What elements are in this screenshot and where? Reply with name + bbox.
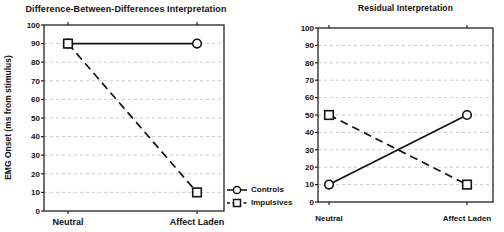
y-tick-label: 70 [31, 77, 40, 86]
marker-square-impulsives [64, 39, 73, 48]
y-tick-label: 70 [305, 76, 314, 85]
legend: Controls Impulsives [227, 184, 292, 208]
figure-two-panel-line-chart: Difference-Between-Differences Interpret… [0, 0, 504, 232]
y-tick-label: 40 [31, 132, 40, 141]
y-tick-label: 90 [305, 41, 314, 50]
y-tick-label: 30 [305, 146, 314, 155]
y-tick-label: 60 [305, 93, 314, 102]
marker-circle-controls [193, 39, 202, 48]
marker-circle-controls [325, 180, 334, 189]
legend-item-controls: Controls [227, 184, 292, 195]
y-tick-label: 50 [31, 114, 40, 123]
marker-square-impulsives [325, 111, 334, 120]
legend-label-impulsives: Impulsives [251, 198, 292, 207]
x-category-label: Neutral [52, 217, 83, 227]
y-tick-label: 10 [31, 188, 40, 197]
x-category-label: Neutral [315, 214, 343, 223]
x-category-label: Affect Laden [443, 214, 492, 223]
marker-square-impulsives [463, 180, 472, 189]
y-tick-label: 80 [305, 59, 314, 68]
marker-circle-controls [463, 111, 472, 120]
legend-item-impulsives: Impulsives [227, 197, 292, 208]
y-tick-label: 60 [31, 95, 40, 104]
y-tick-label: 30 [31, 151, 40, 160]
y-tick-label: 40 [305, 128, 314, 137]
y-tick-label: 80 [31, 58, 40, 67]
legend-square-marker-icon [227, 198, 247, 208]
y-tick-label: 10 [305, 180, 314, 189]
y-tick-label: 50 [305, 111, 314, 120]
y-tick-label: 90 [31, 39, 40, 48]
y-tick-label: 100 [301, 24, 315, 33]
legend-circle-marker-icon [227, 185, 247, 195]
marker-square-impulsives [193, 188, 202, 197]
y-tick-label: 20 [305, 163, 314, 172]
x-category-label: Affect Laden [170, 217, 225, 227]
y-tick-label: 0 [310, 198, 315, 207]
y-tick-label: 0 [36, 207, 41, 216]
y-tick-label: 100 [27, 21, 41, 30]
legend-label-controls: Controls [251, 185, 284, 194]
y-tick-label: 20 [31, 170, 40, 179]
